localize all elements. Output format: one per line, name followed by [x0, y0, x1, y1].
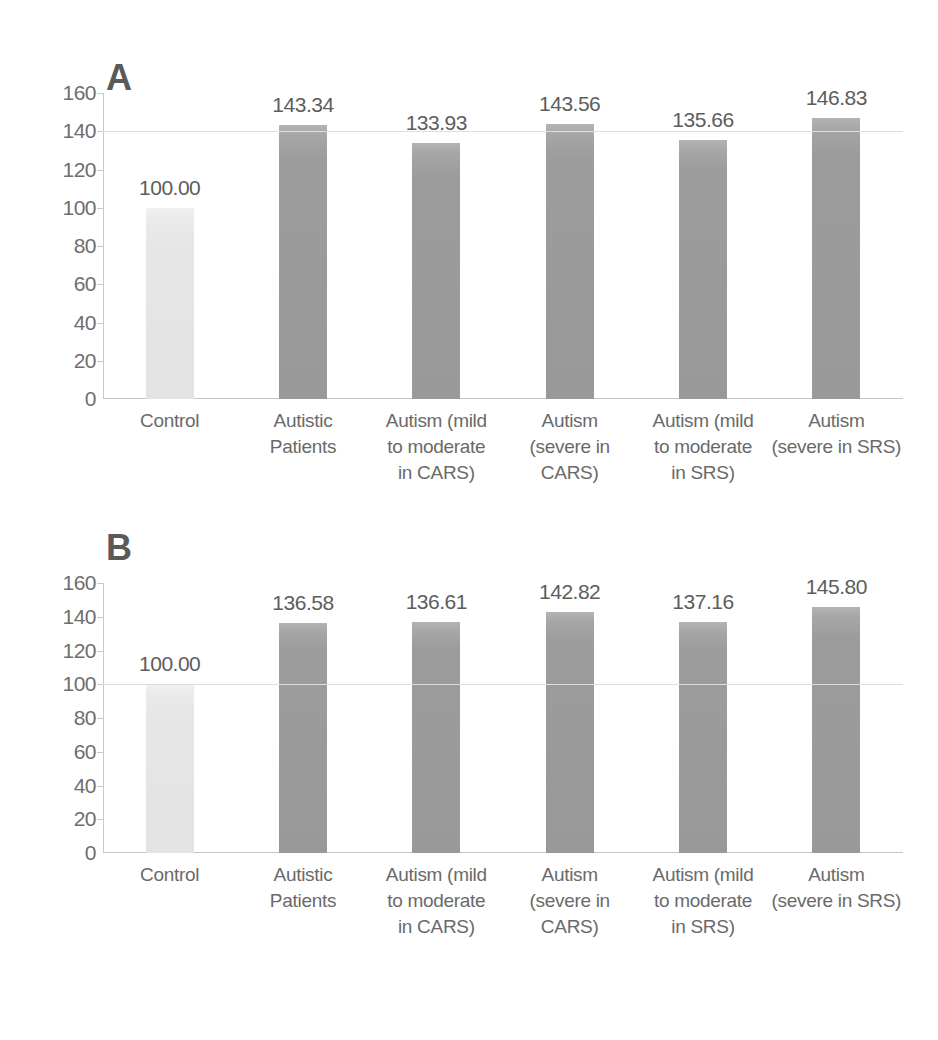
bar-slot: 100.00: [103, 93, 236, 399]
category-label-line: Autism (mild: [370, 862, 503, 888]
category-label-line: to moderate: [636, 888, 769, 914]
category-label-line: in SRS): [636, 914, 769, 940]
category-label-line: Autism (mild: [636, 408, 769, 434]
bar: [279, 623, 327, 853]
category-label: Control: [103, 408, 236, 434]
bar-slot: 142.82: [503, 583, 636, 853]
panel-b-bar-group: 100.00136.58136.61142.82137.16145.80: [103, 583, 903, 853]
category-label-line: in CARS): [370, 914, 503, 940]
panel-a-ytick-0: 0: [42, 387, 96, 411]
category-label: Autism (mildto moderatein SRS): [636, 862, 769, 940]
category-label-line: CARS): [503, 460, 636, 486]
bar-value-label: 146.83: [806, 86, 867, 110]
panel-a-letter: A: [106, 60, 132, 96]
panel-b-ytick-160: 160: [42, 571, 96, 595]
panel-a-tickmark-20: [97, 361, 103, 362]
panel-a-ytick-60: 60: [42, 272, 96, 296]
category-label-line: to moderate: [370, 434, 503, 460]
bar: [679, 622, 727, 853]
category-label: Autism(severe in SRS): [770, 408, 903, 460]
panel-a-ytick-20: 20: [42, 349, 96, 373]
category-label-line: (severe in SRS): [770, 434, 903, 460]
panel-b-tickmark-60: [97, 752, 103, 753]
bar-slot: 136.58: [236, 583, 369, 853]
bar: [812, 118, 860, 399]
bar-slot: 136.61: [370, 583, 503, 853]
bar-slot: 100.00: [103, 583, 236, 853]
panel-b-ytick-0: 0: [42, 841, 96, 865]
bar: [812, 607, 860, 853]
category-label-line: Autism: [503, 408, 636, 434]
bar-value-label: 142.82: [539, 580, 600, 604]
panel-a-tickmark-160: [97, 93, 103, 94]
panel-a-ytick-100: 100: [42, 196, 96, 220]
category-label-line: to moderate: [636, 434, 769, 460]
bar: [546, 124, 594, 399]
bar-value-label: 136.58: [272, 591, 333, 615]
panel-a-bar-group: 100.00143.34133.93143.56135.66146.83: [103, 93, 903, 399]
panel-a-y-axis-labels: 020406080100120140160: [0, 93, 96, 399]
panel-b-ytick-20: 20: [42, 807, 96, 831]
bar-slot: 143.56: [503, 93, 636, 399]
bar-slot: 145.80: [770, 583, 903, 853]
panel-b-ytick-140: 140: [42, 605, 96, 629]
panel-b-tickmark-120: [97, 651, 103, 652]
panel-b-tickmark-80: [97, 718, 103, 719]
panel-a-tickmark-120: [97, 170, 103, 171]
panel-a-ytick-160: 160: [42, 81, 96, 105]
panel-b-tickmark-20: [97, 819, 103, 820]
category-label-line: Autism (mild: [370, 408, 503, 434]
panel-b-plot-area: 100.00136.58136.61142.82137.16145.80: [103, 583, 903, 853]
bar-value-label: 100.00: [139, 176, 200, 200]
bar-slot: 133.93: [370, 93, 503, 399]
panel-b-tickmark-40: [97, 786, 103, 787]
category-label-line: Autism (mild: [636, 862, 769, 888]
bar-slot: 135.66: [636, 93, 769, 399]
category-label: AutisticPatients: [236, 862, 369, 914]
panel-a-ytick-120: 120: [42, 158, 96, 182]
bar-slot: 146.83: [770, 93, 903, 399]
category-label-line: Autism: [770, 408, 903, 434]
panel-b-y-axis-labels: 020406080100120140160: [0, 583, 96, 853]
panel-b-ytick-80: 80: [42, 706, 96, 730]
panel-b-gridline-100: [103, 684, 903, 685]
bar-value-label: 143.34: [272, 93, 333, 117]
category-label-line: Patients: [236, 888, 369, 914]
panel-b-ytick-120: 120: [42, 639, 96, 663]
bar-value-label: 145.80: [806, 575, 867, 599]
panel-b-tickmark-140: [97, 617, 103, 618]
category-label: Autism (mildto moderatein CARS): [370, 862, 503, 940]
panel-b-letter: B: [106, 530, 132, 566]
category-label-line: Autism: [503, 862, 636, 888]
bar-slot: 137.16: [636, 583, 769, 853]
bar: [146, 684, 194, 853]
figure-two-panel-bar-charts: A 020406080100120140160 100.00143.34133.…: [0, 0, 938, 1040]
bar: [279, 125, 327, 399]
bar: [546, 612, 594, 853]
panel-a: A 020406080100120140160 100.00143.34133.…: [0, 60, 938, 520]
bar-value-label: 137.16: [672, 590, 733, 614]
bar: [679, 140, 727, 399]
bar-value-label: 100.00: [139, 652, 200, 676]
panel-a-tickmark-80: [97, 246, 103, 247]
category-label: Autism(severe in SRS): [770, 862, 903, 914]
category-label-line: Patients: [236, 434, 369, 460]
category-label-line: CARS): [503, 914, 636, 940]
category-label-line: Autism: [770, 862, 903, 888]
panel-a-ytick-140: 140: [42, 119, 96, 143]
category-label: Autism(severe inCARS): [503, 408, 636, 486]
panel-a-ytick-40: 40: [42, 311, 96, 335]
panel-a-tickmark-100: [97, 208, 103, 209]
bar: [412, 622, 460, 853]
panel-a-plot-area: 100.00143.34133.93143.56135.66146.83: [103, 93, 903, 399]
category-label-line: Autistic: [236, 408, 369, 434]
category-label-line: Control: [103, 408, 236, 434]
category-label: Control: [103, 862, 236, 888]
bar-value-label: 143.56: [539, 92, 600, 116]
bar-value-label: 136.61: [406, 590, 467, 614]
category-label-line: to moderate: [370, 888, 503, 914]
category-label-line: in CARS): [370, 460, 503, 486]
category-label-line: Control: [103, 862, 236, 888]
panel-a-ytick-80: 80: [42, 234, 96, 258]
bar-slot: 143.34: [236, 93, 369, 399]
